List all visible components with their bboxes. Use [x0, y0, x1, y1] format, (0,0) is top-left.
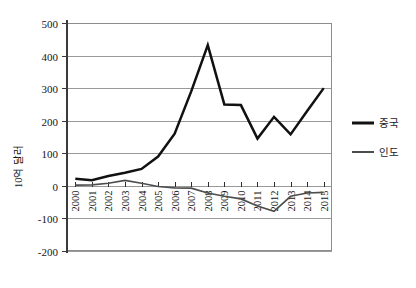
x-tick-label-2015: 2015: [319, 191, 330, 212]
y-tick-label-400: 400: [42, 51, 59, 63]
x-tick-label-2009: 2009: [219, 191, 230, 212]
line-chart-figure: -200-1000100200300400500 10억 달러 20002001…: [0, 0, 416, 288]
x-tick-label-2007: 2007: [186, 191, 197, 212]
y-axis-title: 10억 달러: [13, 145, 24, 188]
chart-legend: 중국인도: [352, 117, 399, 158]
x-tick-label-2002: 2002: [103, 191, 114, 212]
y-tick-label--200: -200: [38, 246, 59, 258]
chart-container: -200-1000100200300400500 10억 달러 20002001…: [0, 0, 416, 288]
y-tick-label-100: 100: [42, 148, 59, 160]
x-tick-label-2005: 2005: [153, 191, 164, 212]
y-tick-label-0: 0: [53, 181, 59, 193]
x-tick-label-2000: 2000: [70, 191, 81, 212]
y-tick-label-500: 500: [42, 18, 59, 30]
x-tick-label-2004: 2004: [137, 190, 148, 212]
y-axis-ticks-group: -200-1000100200300400500: [38, 18, 67, 258]
legend-label-2: 인도: [379, 146, 399, 158]
x-tick-label-2003: 2003: [120, 191, 131, 212]
y-tick-label-200: 200: [42, 116, 59, 128]
y-tick-label-300: 300: [42, 83, 59, 95]
x-tick-label-2013: 2013: [286, 191, 297, 212]
plot-area-background: [67, 23, 332, 251]
x-tick-label-2006: 2006: [170, 191, 181, 212]
y-tick-label--100: -100: [38, 213, 59, 225]
x-tick-label-2001: 2001: [87, 191, 98, 212]
legend-label-1: 중국: [379, 117, 399, 129]
